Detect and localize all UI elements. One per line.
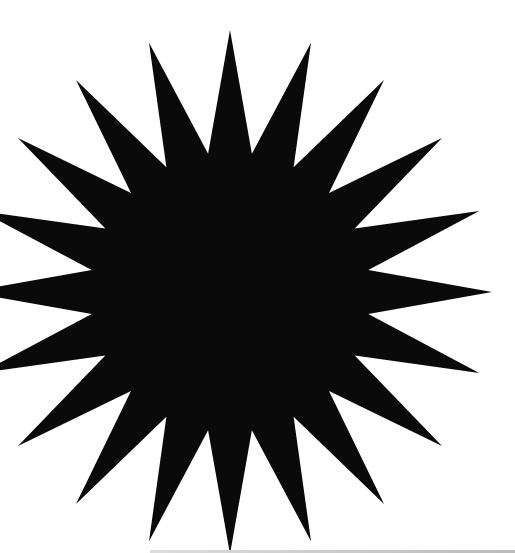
starburst-polygon bbox=[0, 30, 492, 553]
starburst-shape bbox=[0, 0, 515, 553]
